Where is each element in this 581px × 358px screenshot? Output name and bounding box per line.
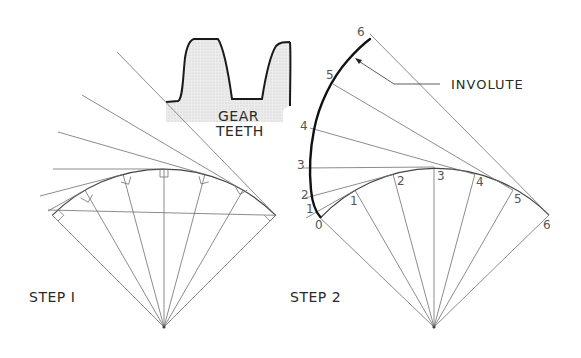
svg-text:3: 3 — [297, 158, 305, 172]
gear-teeth-illustration: GEAR TEETH — [166, 39, 290, 139]
svg-text:4: 4 — [300, 119, 308, 133]
step2-center-point — [432, 325, 435, 328]
step2-label: STEP 2 — [290, 289, 341, 305]
step1-right-angle-markers — [58, 169, 276, 221]
svg-text:0: 0 — [315, 218, 323, 232]
involute-label: INVOLUTE — [451, 77, 524, 92]
step1-label: STEP I — [29, 289, 75, 305]
svg-text:2: 2 — [301, 188, 309, 202]
svg-text:3: 3 — [437, 169, 445, 183]
svg-text:5: 5 — [326, 68, 334, 82]
step1-construction: STEP I — [29, 52, 276, 329]
involute-construction-diagram: GEAR TEETH — [0, 0, 581, 358]
svg-text:2: 2 — [397, 174, 405, 188]
svg-text:1: 1 — [350, 194, 358, 208]
step2-construction: INVOLUTE 1 2 3 4 5 6 0 1 2 3 4 5 6 STEP … — [290, 25, 551, 329]
step2-tangent-lines — [303, 34, 549, 218]
step1-center-point — [162, 325, 165, 328]
base-point-labels: 0 1 2 3 4 5 6 — [315, 169, 551, 232]
svg-text:1: 1 — [306, 202, 314, 216]
gear-label-line2: TEETH — [215, 123, 264, 139]
involute-curve — [310, 39, 370, 217]
svg-text:6: 6 — [543, 218, 551, 232]
gear-label-line1: GEAR — [218, 108, 259, 124]
svg-text:5: 5 — [514, 192, 522, 206]
svg-text:6: 6 — [357, 25, 365, 39]
svg-text:4: 4 — [476, 175, 484, 189]
